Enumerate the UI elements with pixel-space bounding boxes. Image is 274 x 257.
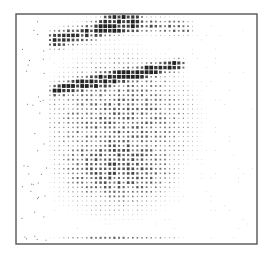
density-dots <box>21 15 252 241</box>
plot-frame <box>16 14 257 244</box>
dot-density-plot <box>0 0 274 257</box>
